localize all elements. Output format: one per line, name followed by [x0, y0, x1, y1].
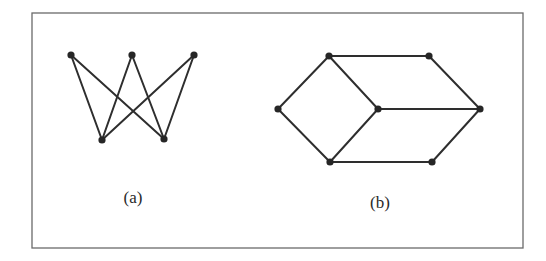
graph-b-hexagonal: (b)	[274, 52, 483, 212]
graph-a-edges	[71, 55, 194, 140]
vertex-c	[374, 105, 381, 112]
vertex-b1	[98, 136, 105, 143]
vertex-bl	[326, 158, 333, 165]
edge-tl-l	[278, 56, 329, 109]
edge-tl-c	[329, 56, 378, 109]
graph-b-label: (b)	[370, 193, 390, 212]
vertex-l	[274, 105, 281, 112]
graph-a-label: (a)	[124, 188, 143, 207]
vertex-tl	[325, 52, 332, 59]
edge-l-bl	[278, 109, 330, 162]
edge-r-br	[432, 109, 480, 162]
vertex-b2	[160, 135, 167, 142]
graph-a-bipartite: (a)	[67, 51, 197, 207]
vertex-tr	[425, 52, 432, 59]
vertex-r	[476, 105, 483, 112]
vertex-a3	[190, 51, 197, 58]
vertex-a1	[67, 51, 74, 58]
vertex-br	[428, 158, 435, 165]
edge-a3-b1	[102, 55, 194, 140]
edge-c-bl	[330, 109, 378, 162]
vertex-a2	[128, 51, 135, 58]
edge-tr-r	[429, 56, 480, 109]
graph-figure: (a) (b)	[0, 0, 546, 261]
